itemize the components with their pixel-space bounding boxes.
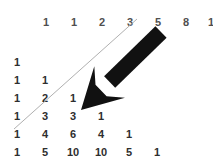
arrow-shaft <box>104 26 167 88</box>
pascal-value: 5 <box>118 147 140 158</box>
fibonacci-value: 2 <box>91 17 113 28</box>
pascal-value: 10 <box>90 147 112 158</box>
pascal-value: 1 <box>118 129 140 140</box>
bold-down-left-arrow <box>81 26 167 110</box>
fibonacci-value: 3 <box>119 17 141 28</box>
figure-canvas: 1123581321 11112113311464115101051 <box>0 0 213 158</box>
pascal-value: 3 <box>62 111 84 122</box>
fibonacci-value: 1 <box>35 17 57 28</box>
fibonacci-value: 5 <box>147 17 169 28</box>
pascal-value: 1 <box>6 147 28 158</box>
pascal-value: 1 <box>6 111 28 122</box>
fibonacci-value: 1 <box>63 17 85 28</box>
pascal-value: 2 <box>34 93 56 104</box>
pascal-value: 10 <box>62 147 84 158</box>
pascal-value: 3 <box>34 111 56 122</box>
pascal-value: 1 <box>62 93 84 104</box>
pascal-value: 1 <box>6 129 28 140</box>
fibonacci-value: 13 <box>203 17 213 28</box>
pascal-value: 1 <box>6 57 28 68</box>
pascal-value: 1 <box>146 147 168 158</box>
pascal-value: 4 <box>90 129 112 140</box>
fibonacci-value: 8 <box>175 17 197 28</box>
pascal-value: 1 <box>6 75 28 86</box>
pascal-value: 1 <box>6 93 28 104</box>
pascal-value: 4 <box>34 129 56 140</box>
pascal-value: 6 <box>62 129 84 140</box>
pascal-value: 1 <box>34 75 56 86</box>
pascal-value: 1 <box>90 111 112 122</box>
arrow-head-icon <box>81 66 125 110</box>
pascal-value: 5 <box>34 147 56 158</box>
